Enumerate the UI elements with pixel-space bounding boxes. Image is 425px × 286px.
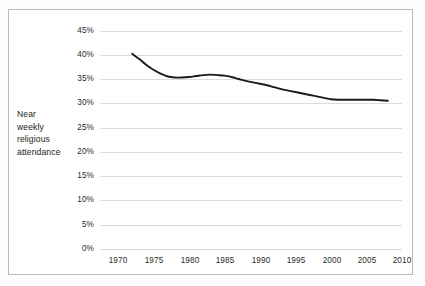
x-axis-tick-label: 2000 (312, 256, 352, 265)
y-axis-tick-label: 0% (60, 244, 94, 253)
y-axis-tick-label: 15% (60, 171, 94, 180)
x-axis-tick-label: 1985 (205, 256, 245, 265)
x-axis-tick-label: 1970 (98, 256, 138, 265)
y-axis-tick-label: 35% (60, 74, 94, 83)
y-axis-tick-label: 20% (60, 147, 94, 156)
x-axis-tick-label: 1980 (170, 256, 210, 265)
x-axis-tick-label: 2005 (347, 256, 387, 265)
chart-figure: Near weekly religious attendance 45%40%3… (0, 0, 425, 286)
series-line-near-weekly-religious-attendance (132, 54, 388, 101)
y-axis-tick-label: 5% (60, 220, 94, 229)
y-axis-tick-label: 30% (60, 98, 94, 107)
y-axis-tick-label: 10% (60, 195, 94, 204)
y-axis-tick-label: 45% (60, 26, 94, 35)
y-axis-tick-label: 40% (60, 50, 94, 59)
x-axis-tick-label: 2010 (382, 256, 422, 265)
x-axis-tick-label: 1995 (276, 256, 316, 265)
y-axis-tick-label: 25% (60, 123, 94, 132)
x-axis-tick-label: 1990 (241, 256, 281, 265)
x-axis-tick-label: 1975 (134, 256, 174, 265)
